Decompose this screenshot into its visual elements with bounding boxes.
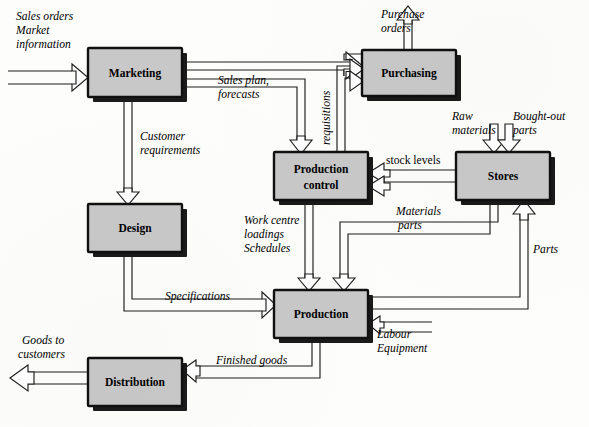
label-bought-out-parts: Bought-out parts	[512, 110, 566, 137]
label-raw-materials-line2: materials	[452, 124, 496, 137]
label-purchase-orders-line1: Purchase	[380, 8, 424, 21]
label-work-centre: Work centre loadings Schedules	[244, 214, 299, 255]
label-requisitions: requisitions	[320, 90, 333, 145]
node-purchasing[interactable]: Purchasing	[362, 50, 461, 101]
label-raw-materials-line1: Raw	[451, 110, 473, 123]
label-raw-materials: Raw materials	[451, 110, 496, 137]
label-parts: Parts	[532, 243, 559, 256]
label-requisitions-text: requisitions	[320, 90, 333, 145]
flow-production-to-stores	[368, 200, 535, 309]
label-purchase-orders: Purchase orders	[380, 8, 424, 35]
label-work-centre-line2: loadings	[244, 228, 284, 241]
label-sales-orders-line1: Sales orders	[16, 10, 74, 23]
label-goods-to-customers-line1: Goods to	[22, 334, 64, 347]
node-production-control-label-1: Production	[294, 163, 349, 175]
label-bought-out-parts-line1: Bought-out	[513, 110, 566, 123]
label-stock-levels-text: stock levels	[386, 154, 441, 167]
label-purchase-orders-line2: orders	[381, 22, 411, 35]
label-labour-equipment-line1: Labour	[376, 328, 412, 341]
label-materials-parts-line2: parts	[397, 219, 422, 232]
label-sales-orders: Sales orders Market information	[15, 10, 74, 51]
node-distribution[interactable]: Distribution	[88, 358, 187, 411]
label-work-centre-line1: Work centre	[244, 214, 299, 227]
flow-marketing-to-design	[117, 97, 139, 205]
node-production-label: Production	[294, 308, 349, 320]
node-design[interactable]: Design	[88, 204, 187, 257]
flow-marketing-to-purchasing	[182, 52, 362, 79]
label-labour-equipment-line2: Equipment	[376, 342, 428, 355]
flow-design-to-production	[124, 252, 276, 318]
label-sales-plan-line1: Sales plan,	[218, 74, 269, 87]
label-finished-goods: Finished goods	[215, 354, 288, 367]
node-purchasing-label: Purchasing	[381, 67, 437, 80]
label-customer-requirements-line1: Customer	[140, 130, 186, 143]
label-goods-to-customers-line2: customers	[18, 348, 66, 361]
node-production-control-label-2: control	[304, 179, 339, 191]
label-customer-requirements: Customer requirements	[140, 130, 201, 157]
node-stores-label: Stores	[488, 170, 519, 182]
label-sales-orders-line3: information	[16, 38, 71, 51]
node-marketing-label: Marketing	[109, 67, 162, 80]
label-materials-parts: Materials parts	[395, 205, 442, 232]
label-finished-goods-text: Finished goods	[215, 354, 288, 367]
node-distribution-label: Distribution	[105, 376, 166, 388]
label-specifications: Specifications	[165, 290, 231, 303]
node-stores[interactable]: Stores	[456, 152, 555, 205]
flow-production-control-to-purchasing	[337, 59, 364, 152]
label-stock-levels: stock levels	[386, 154, 441, 167]
node-marketing[interactable]: Marketing	[88, 48, 187, 102]
flow-production-control-to-production	[298, 200, 320, 291]
diagram-canvas: Marketing Purchasing Production control …	[0, 0, 589, 427]
node-design-label: Design	[118, 222, 152, 235]
label-parts-text: Parts	[532, 243, 559, 256]
label-bought-out-parts-line2: parts	[512, 124, 537, 137]
node-production-control[interactable]: Production control	[274, 152, 373, 205]
label-goods-to-customers: Goods to customers	[18, 334, 66, 361]
flow-distribution-to-customers	[10, 365, 88, 391]
label-sales-orders-line2: Market	[15, 24, 50, 37]
flow-diagram: Marketing Purchasing Production control …	[0, 0, 589, 427]
label-sales-plan-line2: forecasts	[218, 88, 260, 101]
label-specifications-text: Specifications	[165, 290, 231, 303]
node-production[interactable]: Production	[274, 290, 373, 343]
label-work-centre-line3: Schedules	[244, 242, 291, 255]
flow-stores-to-production-control	[368, 163, 456, 196]
label-customer-requirements-line2: requirements	[140, 144, 201, 157]
flow-sales-orders-to-marketing	[8, 64, 88, 91]
label-materials-parts-line1: Materials	[395, 205, 442, 218]
